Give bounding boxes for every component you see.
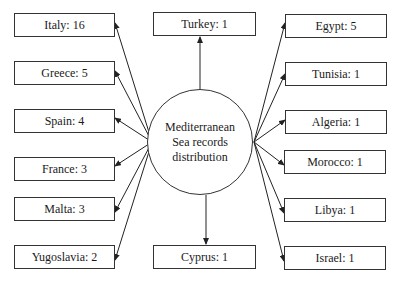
node-label: Spain: 4	[45, 115, 85, 127]
node-label: Yugoslavia: 2	[32, 251, 98, 263]
node-label: Egypt: 5	[316, 20, 357, 32]
node-label: Italy: 16	[44, 19, 84, 31]
center-line-2: Sea records	[172, 135, 228, 150]
arrow-egypt	[254, 23, 285, 142]
node-turkey: Turkey: 1	[153, 12, 256, 36]
node-algeria: Algeria: 1	[285, 110, 387, 134]
node-label: Malta: 3	[44, 203, 84, 215]
node-label: Cyprus: 1	[181, 251, 228, 263]
node-israel: Israel: 1	[284, 246, 386, 270]
node-cyprus: Cyprus: 1	[153, 245, 256, 269]
node-libya: Libya: 1	[284, 198, 386, 222]
node-label: Greece: 5	[41, 67, 87, 79]
node-label: France: 3	[42, 163, 87, 175]
node-greece: Greece: 5	[14, 61, 115, 85]
node-malta: Malta: 3	[14, 197, 115, 221]
node-france: France: 3	[14, 157, 115, 181]
node-yugoslavia: Yugoslavia: 2	[14, 245, 115, 269]
node-label: Libya: 1	[315, 204, 355, 216]
node-label: Morocco: 1	[307, 156, 363, 168]
center-line-3: distribution	[172, 150, 227, 165]
center-line-1: Mediterranean	[165, 120, 235, 135]
node-label: Israel: 1	[316, 252, 355, 264]
node-morocco: Morocco: 1	[284, 150, 386, 174]
node-label: Turkey: 1	[181, 18, 228, 30]
diagram-canvas: Mediterranean Sea records distribution T…	[0, 0, 400, 284]
center-node: Mediterranean Sea records distribution	[147, 89, 253, 195]
node-label: Algeria: 1	[312, 116, 360, 128]
node-tunisia: Tunisia: 1	[285, 62, 387, 86]
node-egypt: Egypt: 5	[285, 14, 387, 38]
node-italy: Italy: 16	[14, 13, 115, 37]
node-spain: Spain: 4	[14, 109, 115, 133]
node-label: Tunisia: 1	[312, 68, 360, 80]
